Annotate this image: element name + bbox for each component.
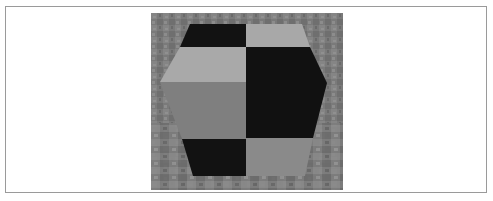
cube-top-tile-light	[246, 24, 310, 47]
cube-scene	[151, 13, 343, 190]
cube-bottom-tile-gray	[246, 138, 313, 176]
cube-right-face-dark	[246, 47, 327, 138]
cube-bottom-tile-dark	[182, 139, 246, 176]
cube-top-tile-dark	[180, 24, 246, 47]
rendered-cube-image	[151, 13, 343, 190]
